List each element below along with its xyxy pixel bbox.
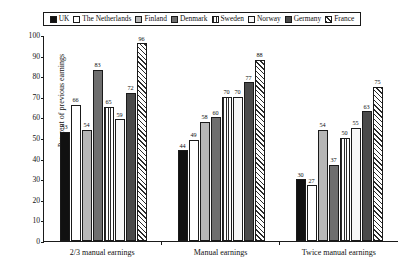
bar-france: 75 <box>373 36 383 241</box>
legend-entry-uk: UK <box>50 15 70 23</box>
category-label: Manual earnings <box>161 248 279 257</box>
bar-rect <box>351 128 361 241</box>
chart-legend: UKThe NetherlandsFinlandDenmarkSwedenNor… <box>43 12 361 26</box>
bar-rect <box>137 43 147 241</box>
bar-rect <box>318 130 328 241</box>
legend-entry-label: Denmark <box>180 15 208 23</box>
legend-swatch-icon <box>285 16 292 23</box>
bar-value-label: 88 <box>249 52 271 58</box>
y-axis-tick-label: 100 <box>22 32 40 40</box>
y-axis-tick-label: 70 <box>22 94 40 102</box>
legend-entry-finland: Finland <box>135 15 167 23</box>
legend-swatch-icon <box>248 16 255 23</box>
bar-rect <box>307 185 317 241</box>
y-axis-tick-label: 20 <box>22 197 40 205</box>
bar-rect <box>82 130 92 241</box>
y-axis-tick-label: 40 <box>22 156 40 164</box>
bar-rect <box>211 117 221 241</box>
bar-sweden: 50 <box>340 36 350 241</box>
legend-entry-label: Finland <box>144 15 167 23</box>
bar-sweden: 70 <box>222 36 232 241</box>
y-axis-tick-label: 90 <box>22 53 40 61</box>
bar-rect <box>244 82 254 241</box>
bar-the-netherlands: 49 <box>189 36 199 241</box>
bar-group: 4449586070707788 <box>162 36 280 241</box>
legend-swatch-icon <box>171 16 178 23</box>
bar-sweden: 65 <box>104 36 114 241</box>
bar-the-netherlands: 66 <box>71 36 81 241</box>
legend-entry-label: Germany <box>294 15 322 23</box>
category-label: 2/3 manual earnings <box>43 248 161 257</box>
legend-entry-germany: Germany <box>285 15 322 23</box>
bar-france: 96 <box>137 36 147 241</box>
legend-entry-the-netherlands: The Netherlands <box>73 15 131 23</box>
bar-rect <box>60 132 70 241</box>
bar-rect <box>362 111 372 241</box>
bar-rect <box>329 165 339 241</box>
bar-denmark: 37 <box>329 36 339 241</box>
y-axis-tick-label: 30 <box>22 176 40 184</box>
legend-entry-label: Norway <box>257 15 281 23</box>
plot-area: Per cent of previous earnings 0102030405… <box>43 36 398 242</box>
bar-germany: 63 <box>362 36 372 241</box>
legend-entry-label: UK <box>59 15 70 23</box>
legend-entry-label: Sweden <box>221 15 244 23</box>
bar-rect <box>233 97 243 241</box>
bar-groups: 5366548365597296444958607070778830275437… <box>44 36 398 241</box>
bar-norway: 70 <box>233 36 243 241</box>
bar-uk: 53 <box>60 36 70 241</box>
legend-swatch-icon <box>135 16 142 23</box>
bar-denmark: 83 <box>93 36 103 241</box>
y-axis-tick-label: 60 <box>22 114 40 122</box>
bar-norway: 55 <box>351 36 361 241</box>
bar-group: 3027543750556375 <box>280 36 398 241</box>
bar-rect <box>222 97 232 241</box>
legend-swatch-icon <box>212 16 219 23</box>
y-axis-tick-label: 80 <box>22 73 40 81</box>
bar-rect <box>126 93 136 241</box>
y-axis-tick-label: 50 <box>22 135 40 143</box>
bar-denmark: 60 <box>211 36 221 241</box>
bar-norway: 59 <box>115 36 125 241</box>
bar-finland: 58 <box>200 36 210 241</box>
bar-rect <box>178 150 188 241</box>
bar-rect <box>104 107 114 241</box>
bar-rect <box>340 138 350 241</box>
bar-finland: 54 <box>318 36 328 241</box>
bar-group: 5366548365597296 <box>44 36 162 241</box>
legend-entry-label: The Netherlands <box>82 15 131 23</box>
legend-swatch-icon <box>50 16 57 23</box>
legend-entry-label: France <box>334 15 354 23</box>
legend-swatch-icon <box>73 16 80 23</box>
bar-the-netherlands: 27 <box>307 36 317 241</box>
bar-rect <box>115 119 125 241</box>
bar-uk: 30 <box>296 36 306 241</box>
legend-entry-norway: Norway <box>248 15 281 23</box>
y-axis-tick-label: 10 <box>22 217 40 225</box>
bar-rect <box>296 179 306 241</box>
bar-germany: 72 <box>126 36 136 241</box>
x-axis-group-separator <box>279 241 280 245</box>
y-axis-tick-label: 0 <box>22 238 40 246</box>
legend-entry-france: France <box>325 15 354 23</box>
bar-rect <box>189 140 199 241</box>
category-label: Twice manual earnings <box>280 248 398 257</box>
bar-rect <box>93 70 103 241</box>
bar-value-label: 96 <box>131 36 153 42</box>
chart-figure: UKThe NetherlandsFinlandDenmarkSwedenNor… <box>0 0 405 274</box>
bar-france: 88 <box>255 36 265 241</box>
legend-entry-sweden: Sweden <box>212 15 244 23</box>
legend-swatch-icon <box>325 16 332 23</box>
x-axis-group-separator <box>161 241 162 245</box>
legend-entry-denmark: Denmark <box>171 15 208 23</box>
bar-rect <box>200 122 210 241</box>
y-axis-tick-mark <box>41 242 44 243</box>
bar-rect <box>373 87 383 242</box>
bar-value-label: 75 <box>367 79 389 85</box>
x-axis-category-labels: 2/3 manual earningsManual earningsTwice … <box>43 248 398 257</box>
bar-rect <box>255 60 265 241</box>
bar-germany: 77 <box>244 36 254 241</box>
